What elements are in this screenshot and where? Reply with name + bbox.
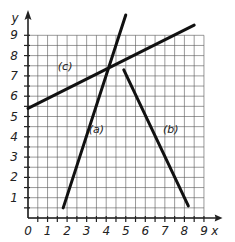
y-tick-label: 9 [10,28,18,42]
y-axis-label: y [10,11,19,25]
x-tick-label: 7 [161,224,169,238]
line-label: (c) [58,60,73,73]
x-tick-label: 5 [122,224,130,238]
x-tick-label: 8 [181,224,189,238]
series-line-2 [28,25,194,108]
x-tick-label: 4 [102,224,110,238]
series-lines [28,15,194,208]
y-tick-label: 2 [10,170,18,184]
y-tick-label: 4 [10,130,18,144]
y-tick-label: 7 [10,69,18,83]
y-tick-label: 5 [10,110,18,124]
series-line-0 [63,15,126,208]
x-tick-label: 3 [83,224,91,238]
line-label: (a) [89,123,104,136]
axes [24,10,223,222]
x-axis-arrow-icon [215,215,223,222]
y-tick-label: 8 [10,49,18,63]
x-tick-label: 1 [44,224,52,238]
y-tick-label: 6 [10,89,18,103]
line-label: (b) [163,123,179,136]
series-line-1 [124,70,189,206]
x-tick-label: 9 [200,224,208,238]
line-graph: 0123456789123456789xy (a)(b)(c) [0,0,235,242]
x-tick-label: 6 [141,224,149,238]
y-tick-label: 3 [10,150,18,164]
x-tick-label: 0 [24,224,32,238]
x-axis-label: x [210,224,219,238]
y-tick-label: 1 [10,191,18,205]
x-tick-label: 2 [63,224,71,238]
line-labels: (a)(b)(c) [58,60,179,136]
